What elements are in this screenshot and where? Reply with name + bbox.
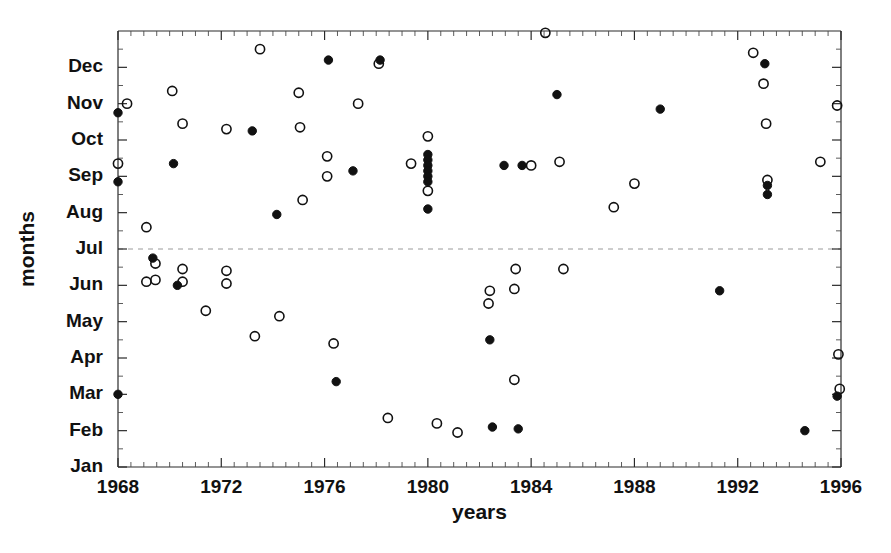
x-tick-label-1980: 1980 [407, 476, 449, 497]
data-point-open [250, 332, 259, 341]
data-point-open [406, 159, 415, 168]
data-point-open [484, 299, 493, 308]
data-point-open [527, 161, 536, 170]
data-point-open [423, 132, 432, 141]
data-point-open [541, 28, 550, 37]
data-point-open [749, 48, 758, 57]
y-axis-title: months [15, 211, 38, 287]
data-point-filled [149, 254, 157, 262]
data-point-open [485, 286, 494, 295]
data-point-filled [518, 161, 526, 169]
data-point-filled [332, 377, 340, 385]
data-point-open [423, 186, 432, 195]
y-tick-label-nov: Nov [67, 92, 103, 113]
months-vs-years-scatter-chart: JanFebMarAprMayJunJulAugSepOctNovDec1968… [0, 0, 891, 553]
data-point-open [559, 264, 568, 273]
x-tick-label-1996: 1996 [820, 476, 862, 497]
y-tick-label-aug: Aug [66, 201, 103, 222]
data-point-open [453, 428, 462, 437]
x-axis-title: years [452, 500, 507, 523]
data-point-open [510, 284, 519, 293]
x-tick-label-1972: 1972 [200, 476, 242, 497]
data-point-open [298, 195, 307, 204]
data-point-open [222, 125, 231, 134]
x-tick-label-1992: 1992 [717, 476, 759, 497]
y-tick-label-mar: Mar [69, 382, 103, 403]
y-tick-label-sep: Sep [68, 164, 103, 185]
data-point-open [816, 157, 825, 166]
data-point-open [142, 223, 151, 232]
data-point-filled [656, 105, 664, 113]
data-point-open [151, 275, 160, 284]
data-point-open [354, 99, 363, 108]
data-point-open [383, 413, 392, 422]
data-point-open [323, 172, 332, 181]
data-point-open [609, 203, 618, 212]
data-point-filled [114, 178, 122, 186]
data-point-open [323, 152, 332, 161]
x-tick-label-1976: 1976 [303, 476, 345, 497]
y-tick-label-may: May [66, 310, 103, 331]
data-point-filled [761, 60, 769, 68]
data-point-open [142, 277, 151, 286]
scatter-plot-page: JanFebMarAprMayJunJulAugSepOctNovDec1968… [0, 0, 891, 553]
data-point-filled [324, 56, 332, 64]
data-point-open [275, 312, 284, 321]
data-point-open [178, 264, 187, 273]
data-point-filled [248, 127, 256, 135]
data-point-open [630, 179, 639, 188]
data-point-filled [376, 56, 384, 64]
y-tick-label-dec: Dec [68, 55, 103, 76]
data-point-filled [486, 336, 494, 344]
data-point-filled [173, 281, 181, 289]
data-point-open [255, 45, 264, 54]
data-point-filled [169, 159, 177, 167]
data-point-open [759, 79, 768, 88]
data-point-open [201, 306, 210, 315]
data-point-open [294, 88, 303, 97]
y-tick-label-apr: Apr [70, 346, 103, 367]
data-point-filled [553, 90, 561, 98]
data-point-filled [488, 423, 496, 431]
data-point-filled [715, 287, 723, 295]
data-point-open [432, 419, 441, 428]
data-point-filled [349, 167, 357, 175]
data-point-open [222, 279, 231, 288]
data-point-open [833, 101, 842, 110]
data-point-filled [763, 181, 771, 189]
data-point-open [555, 157, 564, 166]
data-point-filled [500, 161, 508, 169]
data-point-open [762, 119, 771, 128]
data-point-filled [424, 205, 432, 213]
x-tick-label-1984: 1984 [510, 476, 553, 497]
data-point-filled [273, 210, 281, 218]
data-point-open [222, 266, 231, 275]
y-tick-label-jul: Jul [76, 237, 103, 258]
y-tick-label-jan: Jan [70, 455, 103, 476]
data-point-filled [114, 390, 122, 398]
data-point-open [329, 339, 338, 348]
y-tick-label-feb: Feb [69, 419, 103, 440]
y-tick-label-oct: Oct [71, 128, 103, 149]
y-tick-label-jun: Jun [69, 273, 103, 294]
data-point-filled [514, 425, 522, 433]
x-tick-label-1968: 1968 [97, 476, 139, 497]
data-point-open [178, 119, 187, 128]
data-point-filled [833, 392, 841, 400]
data-point-filled [114, 109, 122, 117]
x-tick-label-1988: 1988 [613, 476, 655, 497]
data-point-open [511, 264, 520, 273]
data-point-filled [763, 190, 771, 198]
data-point-filled [801, 426, 809, 434]
data-point-open [295, 123, 304, 132]
data-point-open [510, 375, 519, 384]
data-point-open [168, 86, 177, 95]
data-point-filled [424, 178, 432, 186]
